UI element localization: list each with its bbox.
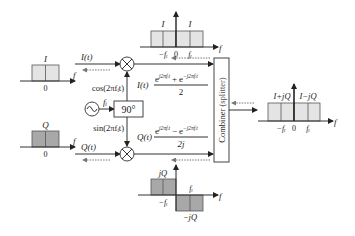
q-baseband-spectrum: Q 0 f <box>20 120 77 159</box>
combiner-label: Combiner (splitter) <box>217 77 227 143</box>
i-path-input: I(t) <box>75 52 120 70</box>
i-rf-right-rect <box>176 31 203 47</box>
q-rf-pos-freq: fᵢ <box>189 184 193 193</box>
i-rf-zero: 0 <box>174 50 178 59</box>
i-baseband-amp: I <box>43 54 48 64</box>
i-baseband-spectrum: I 0 f <box>20 54 77 93</box>
q-mixer <box>120 147 134 161</box>
q-baseband-zero: 0 <box>44 150 48 159</box>
out-right-amp: I−jQ <box>298 91 316 101</box>
i-rf-f: f <box>219 43 223 53</box>
i-mixer <box>120 57 134 71</box>
q-rf-neg-amp: −jQ <box>183 212 197 222</box>
i-signal-label: I(t) <box>80 52 93 62</box>
out-left-amp: I+jQ <box>272 91 290 101</box>
iq-modulator-diagram: I 0 f Q 0 f I(t) Q(t) fᵢ <box>0 0 355 236</box>
i-rf-neg-freq: −fᵢ <box>159 50 168 59</box>
out-right-rect <box>294 103 320 121</box>
q-rf-neg-freq: −fᵢ <box>159 198 168 207</box>
q-signal-label: Q(t) <box>81 142 96 152</box>
out-f: f <box>334 117 338 127</box>
q-path-input: Q(t) <box>75 142 120 160</box>
i-rf-left-amp: I <box>161 19 166 29</box>
q-mod-prefix: Q(t) <box>137 132 152 142</box>
q-rf-neg-rect <box>176 195 203 211</box>
q-baseband-amp: Q <box>42 120 49 130</box>
q-rf-spectrum: jQ −jQ −fᵢ fᵢ f <box>138 165 223 222</box>
i-modulated-branch: I(t) ej2πfᵢt+e−j2πfᵢt 2 <box>134 58 213 97</box>
local-oscillator: fᵢ <box>85 97 114 116</box>
i-rf-spectrum: I I −fᵢ 0 fᵢ f <box>140 12 223 59</box>
q-mod-numerator: ej2πfᵢt−e−j2πfᵢt <box>155 125 198 136</box>
sin-carrier-label: sin(2πfᵢt) <box>93 123 124 133</box>
i-baseband-f: f <box>73 70 77 80</box>
combiner-block: Combiner (splitter) <box>214 58 257 162</box>
cos-carrier-label: cos(2πfᵢt) <box>92 83 124 93</box>
phase-shifter-label: 90° <box>122 104 136 115</box>
out-neg-freq: −fᵢ <box>277 124 286 133</box>
out-pos-freq: fᵢ <box>306 124 310 133</box>
q-mod-denominator: 2j <box>177 139 185 149</box>
i-baseband-zero: 0 <box>44 84 48 93</box>
oscillator-freq: fᵢ <box>103 97 108 107</box>
output-spectrum: I+jQ I−jQ −fᵢ 0 fᵢ f <box>258 84 338 133</box>
q-modulated-branch: Q(t) ej2πfᵢt−e−j2πfᵢt 2j <box>134 125 213 160</box>
q-rf-pos-amp: jQ <box>158 168 168 178</box>
i-rf-pos-freq: fᵢ <box>188 50 192 59</box>
i-mod-denominator: 2 <box>179 87 184 97</box>
i-rf-right-amp: I <box>188 19 193 29</box>
i-mod-prefix: I(t) <box>136 80 149 90</box>
q-baseband-f: f <box>73 136 77 146</box>
q-rf-f: f <box>219 191 223 201</box>
q-rf-pos-rect <box>151 179 176 195</box>
i-rf-left-rect <box>151 31 176 47</box>
out-zero: 0 <box>292 124 296 133</box>
i-mod-numerator: ej2πfᵢt+e−j2πfᵢt <box>155 73 198 84</box>
